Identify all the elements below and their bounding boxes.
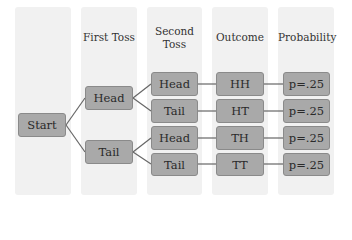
node-start: Start [18, 113, 66, 137]
node-probability-2: p=.25 [283, 99, 330, 123]
node-outcome-tt: TT [216, 153, 264, 176]
node-probability-1: p=.25 [283, 72, 330, 96]
node-second-head-1: Head [151, 72, 198, 96]
node-second-tail-1: Tail [151, 99, 198, 123]
node-first-head: Head [85, 86, 133, 110]
node-second-head-2: Head [151, 126, 198, 150]
node-probability-3: p=.25 [283, 126, 330, 150]
node-outcome-hh: HH [216, 72, 264, 96]
node-probability-4: p=.25 [283, 153, 330, 176]
node-first-tail: Tail [85, 140, 133, 164]
node-outcome-th: TH [216, 126, 264, 150]
node-outcome-ht: HT [216, 99, 264, 123]
node-second-tail-2: Tail [151, 153, 198, 176]
